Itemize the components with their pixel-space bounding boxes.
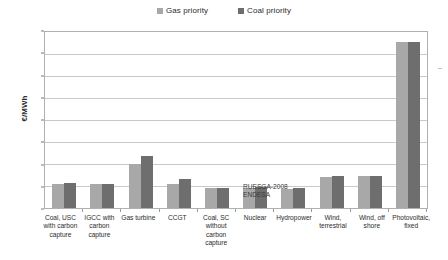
x-tick-mark xyxy=(389,209,427,213)
bar xyxy=(217,188,229,208)
x-tick-mark xyxy=(274,209,312,213)
x-axis-ticks xyxy=(45,209,427,213)
legend-item-gas-priority: Gas priority xyxy=(157,6,208,15)
bar-chart: Gas priority Coal priority €/MWh 4003503… xyxy=(0,0,448,260)
legend-item-coal-priority: Coal priority xyxy=(238,6,291,15)
bar-group xyxy=(45,32,83,208)
x-axis-label-1: IGCC with carbon capture xyxy=(80,214,119,248)
bar xyxy=(90,184,102,208)
bar-group xyxy=(121,32,159,208)
bar xyxy=(358,176,370,208)
x-tick-mark xyxy=(160,209,198,213)
bar xyxy=(205,188,217,208)
x-tick-mark xyxy=(198,209,236,213)
chart-legend: Gas priority Coal priority xyxy=(0,6,448,15)
chart-annotation: RUESGA-2008 ENDESA xyxy=(243,183,288,199)
bar-group xyxy=(389,32,427,208)
annotation-line-1: RUESGA-2008 xyxy=(243,183,288,191)
bar xyxy=(179,179,191,208)
x-axis-label-6: Hydropower xyxy=(275,214,314,248)
bar xyxy=(64,183,76,208)
x-tick-mark xyxy=(45,209,83,213)
legend-label-coal-priority: Coal priority xyxy=(247,6,291,15)
bar-group xyxy=(160,32,198,208)
bar-group xyxy=(236,32,274,208)
bar-group xyxy=(83,32,121,208)
legend-swatch-gas-priority xyxy=(157,8,163,14)
bar xyxy=(102,184,114,208)
bar xyxy=(370,176,382,208)
bar xyxy=(332,176,344,208)
x-axis-label-9: Photovoltaic, fixed xyxy=(391,214,431,248)
bar-group xyxy=(198,32,236,208)
x-axis-label-8: Wind, off shore xyxy=(352,214,391,248)
x-tick-mark xyxy=(236,209,274,213)
x-axis-label-5: Nuclear xyxy=(236,214,275,248)
bar xyxy=(141,156,153,208)
x-axis-labels: Coal, USC with carbon captureIGCC with c… xyxy=(41,214,431,248)
bar xyxy=(320,177,332,208)
bar-group xyxy=(274,32,312,208)
bar xyxy=(167,184,179,208)
x-tick-mark xyxy=(351,209,389,213)
legend-label-gas-priority: Gas priority xyxy=(166,6,208,15)
y-axis-title: €/MWh xyxy=(20,79,29,139)
x-axis-label-0: Coal, USC with carbon capture xyxy=(41,214,80,248)
x-axis-label-7: Wind, terrestrial xyxy=(313,214,352,248)
bar xyxy=(408,42,420,208)
x-axis-label-4: Coal, SC without carbon capture xyxy=(197,214,236,248)
bar-group xyxy=(312,32,350,208)
bar xyxy=(129,164,141,208)
bar xyxy=(396,42,408,208)
x-axis-label-2: Gas turbine xyxy=(119,214,158,248)
annotation-line-2: ENDESA xyxy=(243,191,288,199)
bars-layer xyxy=(45,32,427,208)
x-tick-mark xyxy=(83,209,121,213)
x-tick-mark xyxy=(312,209,350,213)
bar xyxy=(52,184,64,208)
bar xyxy=(293,188,305,208)
right-edge-mark xyxy=(438,68,442,69)
x-tick-mark xyxy=(121,209,159,213)
bar-group xyxy=(351,32,389,208)
x-axis-label-3: CCGT xyxy=(158,214,197,248)
legend-swatch-coal-priority xyxy=(238,8,244,14)
